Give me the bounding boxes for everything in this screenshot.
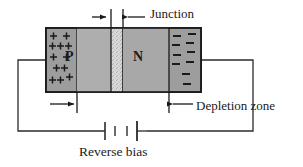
battery-two-cell: [105, 121, 147, 141]
n-region-label: N: [133, 50, 143, 64]
diagram-canvas: [0, 0, 303, 167]
n-region: [123, 28, 169, 92]
junction-label: Junction: [150, 7, 194, 20]
depletion-zone-label: Depletion zone: [196, 99, 275, 112]
p-region-label: P: [65, 50, 74, 64]
reverse-bias-label: Reverse bias: [79, 145, 148, 159]
diode-reverse-bias-diagram: P N Junction Depletion zone Reverse bias: [0, 0, 303, 167]
p-region: [77, 28, 111, 92]
junction-band: [111, 28, 123, 92]
negative-charge-band: [169, 28, 201, 92]
junction-callout: [92, 9, 145, 28]
depletion-callout: [50, 92, 193, 113]
